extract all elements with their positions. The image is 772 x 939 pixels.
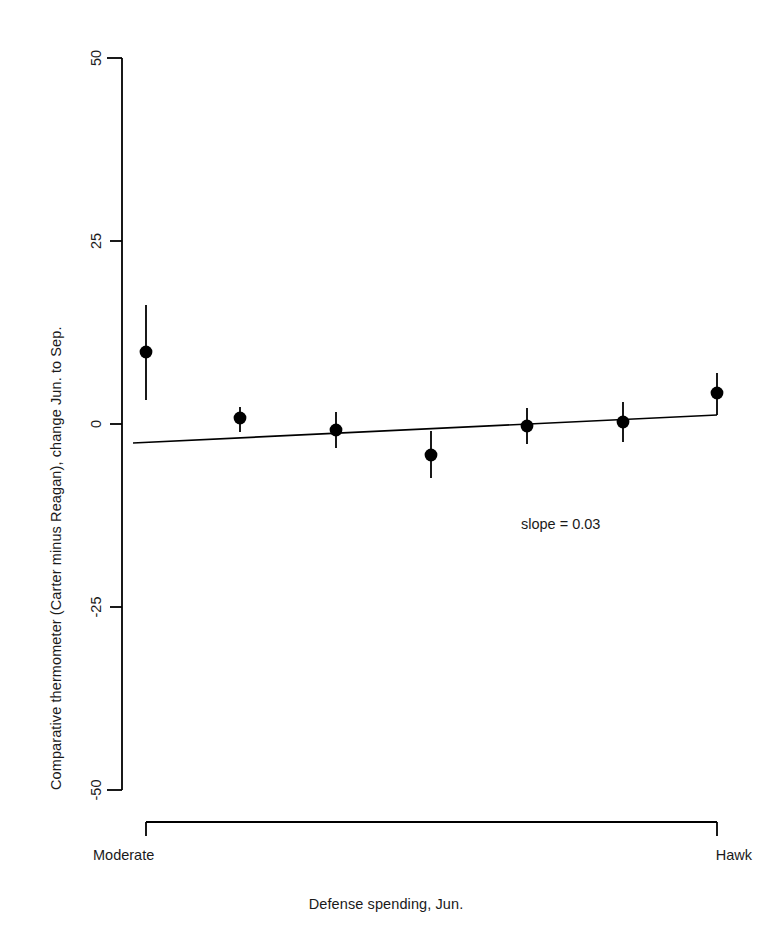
regression-line: [133, 415, 717, 443]
plot-canvas: [0, 0, 772, 939]
x-axis: [146, 822, 717, 836]
data-point-6: [617, 402, 630, 442]
data-series-points: [140, 305, 724, 478]
y-axis: [107, 58, 122, 790]
data-point-7: [711, 373, 724, 415]
data-point-4: [425, 431, 438, 478]
chart-figure: Comparative thermometer (Carter minus Re…: [0, 0, 772, 939]
data-point-3: [330, 412, 343, 448]
data-point-5: [521, 408, 534, 444]
data-point-2: [234, 407, 247, 432]
data-point-1: [140, 305, 153, 400]
